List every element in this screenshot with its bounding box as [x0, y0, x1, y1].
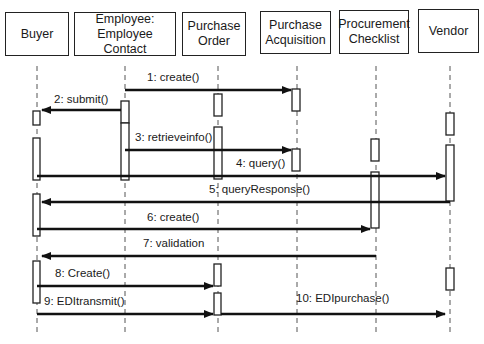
message-label-5: 5: queryResponse(): [209, 183, 310, 195]
message-label-6: 6: create(): [147, 211, 199, 223]
message-label-9: 9: EDItransmit(): [44, 295, 125, 307]
sequence-lines: [0, 0, 484, 344]
message-label-7: 7: validation: [143, 237, 204, 249]
message-label-8: 8: Create(): [55, 267, 110, 279]
message-label-10: 10: EDIpurchase(): [296, 292, 389, 304]
message-label-4: 4: query(): [236, 157, 285, 169]
message-label-1: 1: create(): [147, 71, 199, 83]
activation-bar: [33, 111, 40, 125]
message-label-3: 3: retrieveinfo(): [135, 131, 212, 143]
message-label-2: 2: submit(): [54, 93, 108, 105]
